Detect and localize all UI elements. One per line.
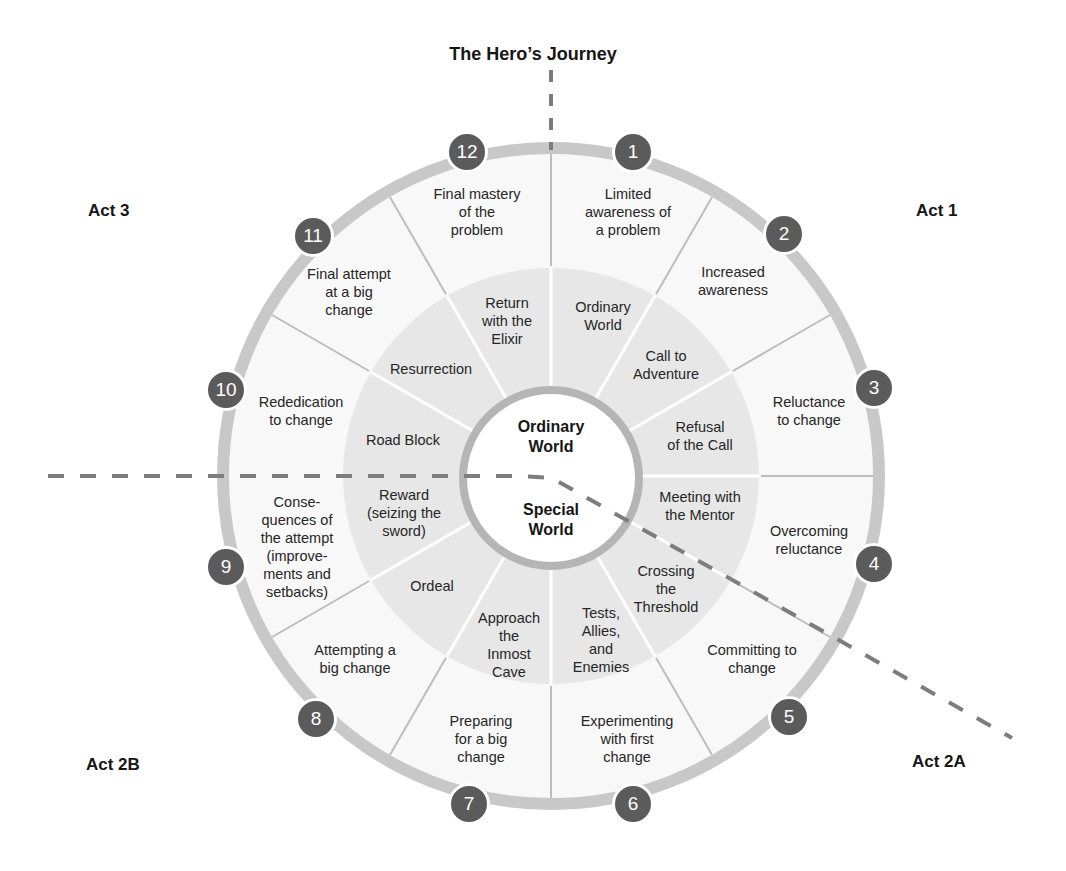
outer-stage-label-4: Overcoming reluctance <box>770 522 848 558</box>
outer-stage-label-6: Experimenting with first change <box>581 712 674 766</box>
inner-stage-label-crossing-the-threshold: Crossing the Threshold <box>634 562 698 616</box>
stage-number-badge-4: 4 <box>853 543 895 585</box>
outer-stage-label-1: Limited awareness of a problem <box>585 185 671 239</box>
outer-stage-label-7: Preparing for a big change <box>450 712 513 766</box>
stage-number-badge-1: 1 <box>612 131 654 173</box>
stage-number-badge-7: 7 <box>448 783 490 825</box>
stage-number-badge-3: 3 <box>853 367 895 409</box>
stage-number-badge-12: 12 <box>446 131 488 173</box>
inner-stage-label-resurrection: Resurrection <box>390 360 472 378</box>
stage-number-badge-11: 11 <box>292 215 334 257</box>
stage-number-badge-6: 6 <box>612 783 654 825</box>
inner-stage-label-ordeal: Ordeal <box>410 577 454 595</box>
outer-stage-label-5: Committing to change <box>707 641 796 677</box>
center-label-special-world: Special World <box>523 500 579 540</box>
stage-number-badge-8: 8 <box>295 698 337 740</box>
act-1-label: Act 1 <box>916 201 958 221</box>
outer-stage-label-2: Increased awareness <box>698 263 768 299</box>
inner-stage-label-return-with-the-elixir: Return with the Elixir <box>482 294 532 348</box>
inner-stage-label-call-to-adventure: Call to Adventure <box>633 347 699 383</box>
act-2a-label: Act 2A <box>912 752 966 772</box>
inner-stage-label-tests-allies-enemies: Tests, Allies, and Enemies <box>573 604 629 676</box>
outer-stage-label-10: Rededication to change <box>259 393 344 429</box>
stage-number-badge-2: 2 <box>763 213 805 255</box>
outer-stage-label-11: Final attempt at a big change <box>307 265 391 319</box>
inner-stage-label-approach-inmost-cave: Approach the Inmost Cave <box>478 609 540 681</box>
inner-stage-label-ordinary-world: Ordinary World <box>575 298 631 334</box>
inner-stage-label-reward: Reward (seizing the sword) <box>367 486 441 540</box>
outer-stage-label-8: Attempting a big change <box>314 641 395 677</box>
stage-number-badge-5: 5 <box>768 696 810 738</box>
outer-stage-label-9: Conse- quences of the attempt (improve- … <box>261 493 334 601</box>
outer-stage-label-3: Reluctance to change <box>773 393 846 429</box>
act-3-label: Act 3 <box>88 201 130 221</box>
stage-number-badge-9: 9 <box>205 546 247 588</box>
outer-stage-label-12: Final mastery of the problem <box>433 185 520 239</box>
center-label-ordinary-world: Ordinary World <box>518 417 585 457</box>
diagram-title: The Hero’s Journey <box>0 44 1066 65</box>
stage-number-badge-10: 10 <box>205 369 247 411</box>
act-2b-label: Act 2B <box>86 755 140 775</box>
inner-stage-label-refusal-of-the-call: Refusal of the Call <box>667 418 732 454</box>
inner-stage-label-road-block: Road Block <box>366 431 440 449</box>
inner-stage-label-meeting-with-the-mentor: Meeting with the Mentor <box>659 488 740 524</box>
